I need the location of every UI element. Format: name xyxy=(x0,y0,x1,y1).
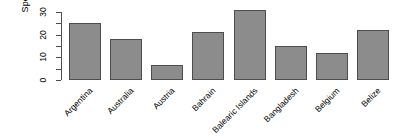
y-axis-tick-label: 30 xyxy=(38,1,48,23)
plot-area xyxy=(61,8,391,80)
y-axis-title: Spending xyxy=(19,0,31,26)
y-axis-tick-label: 10 xyxy=(38,46,48,68)
bar xyxy=(275,46,307,80)
bar xyxy=(316,53,348,80)
bar xyxy=(110,39,142,80)
y-axis-tick xyxy=(56,80,61,81)
bar xyxy=(357,30,389,80)
bar xyxy=(234,10,266,80)
bar xyxy=(151,65,183,80)
x-axis-tick-label: Argentina xyxy=(0,85,94,140)
y-axis-tick-label: 0 xyxy=(38,69,48,91)
y-axis-tick-label: 20 xyxy=(38,24,48,46)
bar xyxy=(192,32,224,80)
bar xyxy=(69,23,101,80)
bar-chart: Spending 0102030 ArgentinaAustraliaAustr… xyxy=(0,0,394,140)
